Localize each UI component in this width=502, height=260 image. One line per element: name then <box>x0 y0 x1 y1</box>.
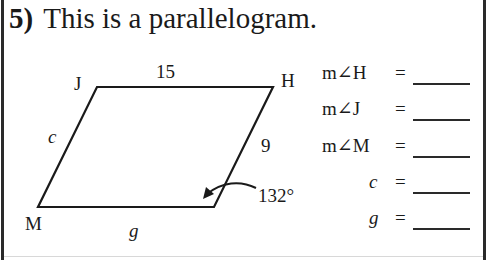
answer-blank[interactable] <box>413 192 470 194</box>
angle-label: 132° <box>258 186 294 206</box>
answer-label: c <box>369 171 377 193</box>
arrowhead-icon <box>203 187 214 199</box>
answer-row-angle-j: m∠J = <box>312 98 482 122</box>
side-label-jm: c <box>48 127 56 147</box>
answer-row-angle-m: m∠M = <box>312 135 482 159</box>
vertex-label-h: H <box>281 71 295 91</box>
answer-blank[interactable] <box>413 156 470 158</box>
equals-sign: = <box>395 62 406 84</box>
answer-row-angle-h: m∠H = <box>312 62 482 86</box>
answer-blank[interactable] <box>413 228 470 230</box>
equals-sign: = <box>395 171 406 193</box>
side-label-jh: 15 <box>156 62 175 82</box>
answer-label: m∠M <box>322 135 370 157</box>
angle-arrow-icon <box>207 183 256 194</box>
equals-sign: = <box>395 135 406 157</box>
parallelogram-shape <box>38 87 273 207</box>
equals-sign: = <box>395 98 406 120</box>
answer-label: m∠H <box>322 62 366 84</box>
vertex-label-j: J <box>74 74 81 94</box>
answer-label: m∠J <box>322 98 360 120</box>
answer-row-g: g = <box>312 207 482 231</box>
answer-row-c: c = <box>312 171 482 195</box>
answer-label: g <box>369 207 379 229</box>
answer-blank[interactable] <box>413 83 470 85</box>
answer-blank[interactable] <box>413 119 470 121</box>
side-label-mbr: g <box>129 221 139 241</box>
vertex-label-m: M <box>25 214 42 234</box>
equals-sign: = <box>395 207 406 229</box>
side-label-h-br: 9 <box>261 136 271 156</box>
